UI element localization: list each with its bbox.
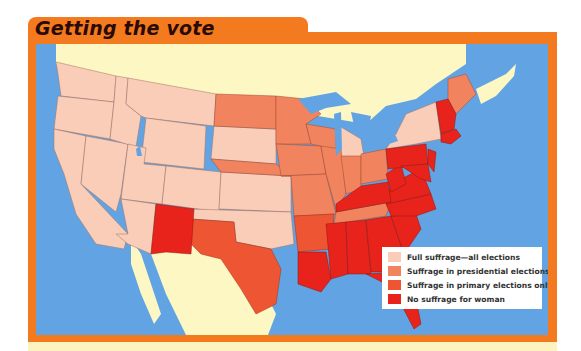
state-colorado [162, 166, 221, 212]
legend-item-no-suffrage: No suffrage for woman [388, 293, 505, 305]
us-suffrage-map: Full suffrage—all elections Suffrage in … [36, 44, 548, 335]
legend-item-full-suffrage: Full suffrage—all elections [388, 251, 520, 263]
legend-swatch [388, 280, 401, 290]
legend-label: Suffrage in primary elections only [407, 281, 548, 290]
legend-swatch [388, 294, 401, 304]
state-ohio [361, 149, 388, 184]
state-wyoming [141, 118, 206, 169]
state-new-jersey [428, 149, 436, 172]
state-south-dakota [211, 126, 276, 164]
map-legend: Full suffrage—all elections Suffrage in … [382, 247, 542, 309]
nova-scotia-land [476, 64, 516, 104]
state-iowa [276, 144, 326, 176]
caption-strip [28, 342, 557, 351]
legend-label: No suffrage for woman [407, 295, 505, 304]
legend-item-presidential-only: Suffrage in presidential elections only [388, 265, 548, 277]
legend-label: Suffrage in presidential elections only [407, 267, 548, 276]
map-title: Getting the vote [35, 17, 215, 39]
legend-swatch [388, 266, 401, 276]
legend-swatch [388, 252, 401, 262]
state-new-mexico [151, 204, 194, 254]
legend-label: Full suffrage—all elections [407, 253, 520, 262]
state-north-dakota [214, 94, 276, 129]
state-louisiana [298, 252, 331, 292]
state-kansas [219, 172, 291, 212]
legend-item-primary-only: Suffrage in primary elections only [388, 279, 548, 291]
